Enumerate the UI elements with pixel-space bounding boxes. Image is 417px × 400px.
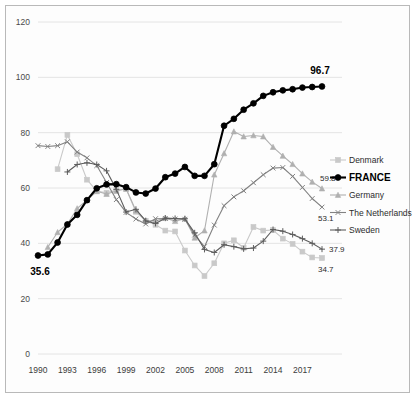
series-end-value-label: 37.9 — [329, 245, 345, 254]
data-point-marker — [261, 172, 266, 177]
data-point-marker — [280, 236, 285, 241]
data-point-marker — [173, 229, 178, 234]
data-point-marker — [55, 167, 60, 172]
data-point-marker — [335, 175, 341, 181]
data-point-marker — [212, 261, 217, 266]
data-point-marker — [290, 174, 295, 179]
data-point-marker — [55, 240, 61, 246]
legend-label: Denmark — [349, 155, 384, 165]
legend-label: Germany — [349, 190, 385, 200]
x-axis-tick-label: 2005 — [175, 365, 194, 375]
y-axis-tick-label: 80 — [21, 128, 31, 138]
data-point-marker — [134, 217, 139, 222]
data-point-marker — [261, 228, 266, 233]
series-line — [48, 132, 322, 248]
series-end-value-label: 96.7 — [310, 65, 330, 76]
data-point-marker — [113, 181, 119, 187]
data-point-marker — [231, 116, 237, 122]
data-point-marker — [251, 100, 257, 106]
y-axis-tick-label: 40 — [21, 238, 31, 248]
data-point-marker — [104, 168, 110, 174]
legend-label: FRANCE — [349, 172, 391, 183]
data-point-marker — [94, 161, 100, 167]
data-point-marker — [260, 93, 266, 99]
series-germany: 59.8 — [45, 129, 336, 250]
data-point-marker — [335, 227, 341, 233]
data-point-marker — [299, 236, 305, 242]
data-point-marker — [133, 190, 139, 196]
data-point-marker — [202, 274, 207, 279]
data-point-marker — [212, 172, 217, 177]
data-point-marker — [320, 256, 325, 261]
data-point-marker — [35, 253, 41, 259]
series-end-value-label: 34.7 — [318, 265, 334, 274]
data-point-marker — [182, 248, 187, 253]
data-point-marker — [222, 203, 227, 208]
data-point-marker — [84, 197, 90, 203]
x-axis-tick-label: 2008 — [205, 365, 224, 375]
data-point-marker — [309, 240, 315, 246]
data-point-marker — [310, 196, 315, 201]
data-point-marker — [309, 84, 315, 90]
data-point-marker — [192, 173, 198, 179]
legend-item-france[interactable]: FRANCE — [330, 172, 391, 183]
y-axis-tick-label: 60 — [21, 183, 31, 193]
data-point-marker — [202, 228, 207, 233]
x-axis-tick-label: 2017 — [293, 365, 312, 375]
data-point-marker — [241, 188, 246, 193]
data-point-marker — [310, 255, 315, 260]
data-point-marker — [201, 246, 207, 252]
series-denmark: 34.7 — [55, 132, 334, 278]
data-point-marker — [231, 129, 236, 134]
chart-container: 0204060801001201990199319961999200220052… — [0, 0, 417, 400]
data-point-marker — [192, 263, 197, 268]
series-the-netherlands: 53.1 — [36, 139, 335, 249]
x-axis-tick-label: 1990 — [29, 365, 48, 375]
data-point-marker — [212, 223, 217, 228]
data-point-marker — [202, 173, 208, 179]
series-france: 96.735.6 — [30, 65, 330, 276]
data-point-marker — [172, 171, 178, 177]
data-point-marker — [319, 246, 325, 252]
data-point-marker — [94, 185, 100, 191]
data-point-marker — [123, 184, 129, 190]
data-point-marker — [153, 186, 159, 192]
legend-item-the-netherlands[interactable]: The Netherlands — [330, 208, 412, 218]
data-point-marker — [163, 228, 168, 233]
legend-label: The Netherlands — [349, 208, 412, 218]
data-point-marker — [221, 151, 226, 156]
x-axis-tick-label: 1993 — [58, 365, 77, 375]
data-point-marker — [45, 252, 51, 258]
series-start-value-label: 35.6 — [30, 266, 50, 277]
data-point-marker — [74, 212, 80, 218]
data-point-marker — [300, 85, 306, 91]
y-axis-tick-label: 100 — [16, 72, 30, 82]
y-axis-tick-label: 120 — [16, 17, 30, 27]
data-point-marker — [65, 132, 70, 137]
data-point-marker — [221, 123, 227, 129]
data-point-marker — [231, 238, 236, 243]
data-point-marker — [251, 225, 256, 230]
data-point-marker — [143, 191, 149, 197]
data-point-marker — [85, 155, 90, 160]
line-chart-plot: 0204060801001201990199319961999200220052… — [0, 0, 417, 400]
data-point-marker — [319, 84, 325, 90]
data-point-marker — [85, 177, 90, 182]
data-point-marker — [162, 174, 168, 180]
data-point-marker — [211, 161, 217, 167]
data-point-marker — [290, 241, 295, 246]
data-point-marker — [84, 160, 90, 166]
data-point-marker — [270, 89, 276, 95]
legend-item-sweden[interactable]: Sweden — [330, 225, 380, 235]
legend-item-denmark[interactable]: Denmark — [330, 155, 384, 165]
data-point-marker — [280, 228, 286, 234]
data-point-marker — [104, 182, 110, 188]
data-point-marker — [336, 158, 341, 163]
data-point-marker — [290, 231, 296, 237]
x-axis-tick-label: 1996 — [87, 365, 106, 375]
data-point-marker — [182, 164, 188, 170]
data-point-marker — [231, 194, 236, 199]
x-axis-tick-label: 2002 — [146, 365, 165, 375]
legend-item-germany[interactable]: Germany — [330, 190, 385, 200]
y-axis-tick-label: 0 — [25, 349, 30, 359]
